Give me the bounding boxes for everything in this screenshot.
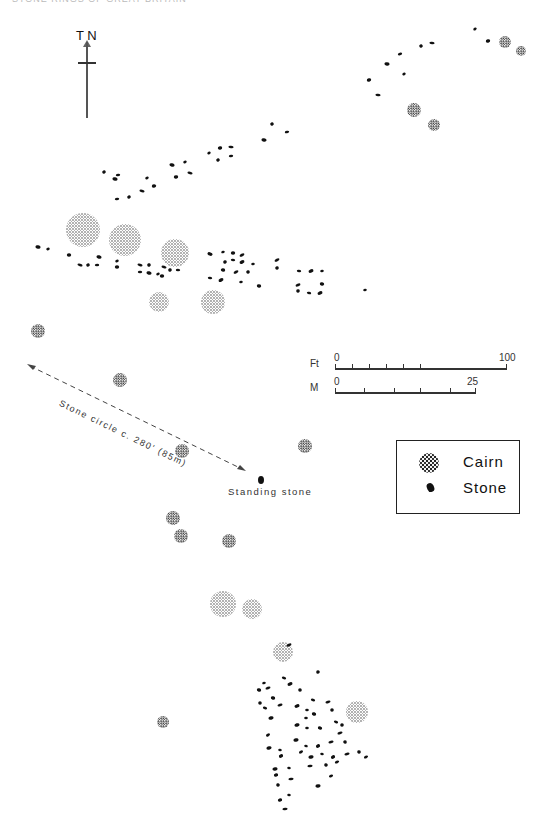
legend-label: Stone: [463, 479, 507, 496]
legend-item-cairn: Cairn: [397, 451, 519, 475]
stone: [96, 255, 102, 260]
stone: [357, 750, 361, 754]
scale-bar-line: [335, 392, 476, 394]
stone: [311, 698, 316, 702]
stone: [207, 252, 213, 257]
stone: [307, 764, 313, 767]
stone: [46, 247, 50, 251]
stone: [304, 717, 308, 720]
cairn: [428, 119, 440, 131]
scale-tick: [394, 388, 395, 393]
stone: [218, 146, 223, 150]
stone: [265, 686, 271, 690]
scale-bar-feet: Ft 0 100: [310, 362, 510, 376]
stone: [343, 740, 347, 744]
stone: [102, 170, 107, 175]
stone: [275, 266, 279, 270]
stone: [317, 726, 322, 731]
stone: [320, 753, 324, 756]
stone: [270, 696, 275, 700]
stone: [218, 277, 224, 282]
cairn: [222, 534, 236, 548]
stone: [282, 808, 287, 811]
stone: [139, 189, 145, 193]
scale-start-label: 0: [334, 376, 340, 387]
cairn: [109, 224, 141, 256]
standing-stone: [258, 476, 264, 484]
stone: [278, 748, 282, 751]
scale-bar-metres: M 0 25: [310, 386, 510, 400]
stone: [363, 755, 368, 759]
stone: [288, 777, 293, 780]
cairn: [31, 324, 45, 338]
cairn: [166, 511, 180, 525]
stone: [398, 52, 403, 55]
stone: [272, 767, 278, 771]
stone: [223, 260, 227, 264]
stone: [304, 745, 308, 748]
stone: [316, 670, 320, 674]
cairn-symbol-icon: [419, 453, 439, 473]
stone: [216, 158, 221, 163]
stone: [266, 746, 272, 750]
standing-stone-label: Standing stone: [228, 486, 312, 497]
stone: [268, 716, 274, 721]
cairn: [113, 373, 127, 387]
stone: [298, 750, 303, 754]
stone: [127, 195, 132, 199]
stone: [308, 755, 314, 759]
scale-tick: [420, 388, 421, 393]
stone: [146, 271, 152, 276]
stone: [337, 731, 343, 735]
scale-tick: [369, 364, 370, 369]
scale-tick: [420, 364, 421, 369]
stone: [169, 163, 175, 167]
stone: [320, 269, 324, 272]
stone: [261, 138, 267, 142]
scale-tick: [475, 388, 476, 393]
stone: [330, 754, 335, 759]
scale-tick: [403, 364, 404, 369]
stone: [183, 160, 187, 164]
stone: [116, 173, 121, 176]
stone: [287, 793, 291, 796]
stone: [344, 752, 350, 755]
scale-tick: [335, 364, 336, 369]
cairn: [499, 36, 511, 48]
stone: [294, 723, 300, 728]
stone: [239, 253, 245, 258]
stone: [296, 289, 300, 293]
cairn: [66, 213, 100, 247]
stone: [429, 42, 434, 45]
north-arrow: T N: [70, 28, 106, 120]
stone: [278, 754, 283, 759]
stone: [328, 740, 334, 744]
stone: [86, 263, 91, 267]
stone: [277, 798, 282, 803]
cairn: [161, 239, 189, 267]
stone: [367, 78, 372, 82]
stone: [485, 39, 490, 43]
stone: [231, 251, 236, 255]
stone: [137, 263, 143, 267]
cairn-layer: [31, 36, 526, 728]
stone: [317, 290, 323, 295]
stone: [274, 258, 280, 263]
stone: [115, 259, 119, 263]
stone: [419, 44, 424, 49]
stone: [95, 264, 99, 267]
scale-tick: [450, 388, 451, 393]
scale-tick: [364, 388, 365, 393]
stone: [115, 198, 120, 201]
stone: [262, 682, 266, 685]
stone: [473, 27, 477, 31]
stone: [207, 151, 211, 155]
stone-symbol-icon: [425, 482, 435, 493]
cairn: [210, 591, 236, 617]
scale-end-label: 100: [499, 352, 516, 363]
scale-start-label: 0: [334, 352, 340, 363]
stone: [295, 283, 301, 287]
stone: [138, 271, 142, 274]
stone: [402, 72, 406, 76]
stone: [168, 268, 172, 272]
